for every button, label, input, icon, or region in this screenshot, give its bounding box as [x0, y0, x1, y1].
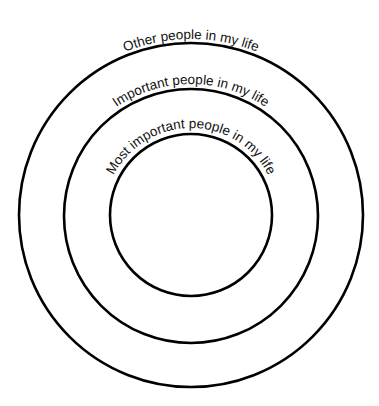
concentric-circles-diagram: Other people in my life Important people…	[0, 0, 379, 406]
inner-ring-label: Most important people in my life	[103, 116, 279, 177]
outer-circle	[19, 43, 363, 387]
middle-ring-label: Important people in my life	[110, 72, 272, 110]
inner-circle	[110, 134, 272, 296]
